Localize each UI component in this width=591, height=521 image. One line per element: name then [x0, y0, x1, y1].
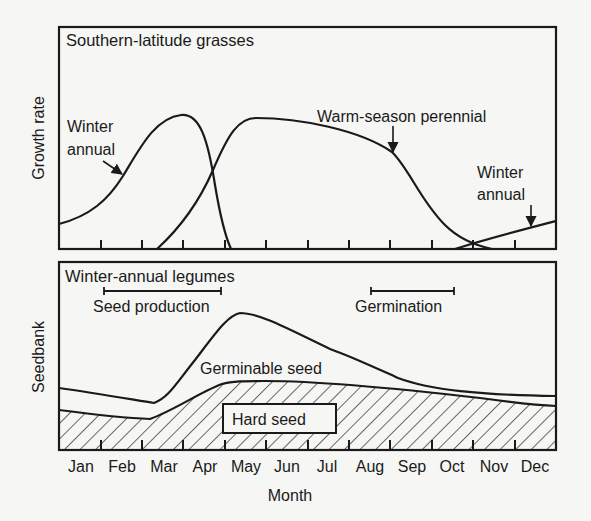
month-label: Jul	[317, 458, 337, 475]
warm-season-perennial-curve	[157, 118, 492, 249]
month-label: Mar	[150, 458, 178, 475]
winter-annual-late-label-line1: Winter	[477, 164, 524, 181]
perennial-label: Warm-season perennial	[317, 108, 486, 125]
seasonal-growth-chart: Southern-latitude grasses Winter annual …	[0, 0, 591, 521]
month-label: Aug	[356, 458, 384, 475]
winter-annual-late-label-line2: annual	[477, 186, 525, 203]
winter-annual-curve	[59, 115, 231, 249]
top-panel-title: Southern-latitude grasses	[66, 31, 254, 49]
germination-label: Germination	[355, 298, 442, 315]
seedbank-axis-label: Seedbank	[30, 320, 47, 393]
growth-rate-axis-label: Growth rate	[30, 96, 47, 180]
hard-seed-label: Hard seed	[232, 411, 306, 428]
month-label: Apr	[193, 458, 219, 475]
winter-annual-label-line2: annual	[67, 141, 115, 158]
winter-annual-label-line1: Winter	[67, 118, 114, 135]
seed-production-range	[104, 287, 221, 295]
growth-rate-panel: Southern-latitude grasses Winter annual …	[30, 27, 556, 249]
x-axis-title: Month	[268, 487, 312, 504]
germination-range	[371, 287, 454, 295]
month-label: Sep	[398, 458, 427, 475]
month-label: Dec	[521, 458, 549, 475]
month-label: Jan	[68, 458, 94, 475]
winter-annual-late-curve	[455, 221, 556, 249]
month-label: Nov	[480, 458, 508, 475]
month-label: May	[231, 458, 261, 475]
germinable-seed-label: Germinable seed	[200, 360, 322, 377]
month-label: Jun	[274, 458, 300, 475]
winter-annual-arrow-icon	[103, 161, 122, 174]
top-panel-frame	[59, 27, 556, 249]
month-axis: Jan Feb Mar Apr May Jun Jul Aug Sep Oct …	[68, 458, 549, 504]
month-label: Oct	[440, 458, 465, 475]
seedbank-panel: Winter-annual legumes Seed production Ge…	[30, 262, 556, 450]
seed-production-label: Seed production	[93, 298, 210, 315]
bottom-panel-title: Winter-annual legumes	[65, 267, 235, 285]
month-label: Feb	[108, 458, 136, 475]
